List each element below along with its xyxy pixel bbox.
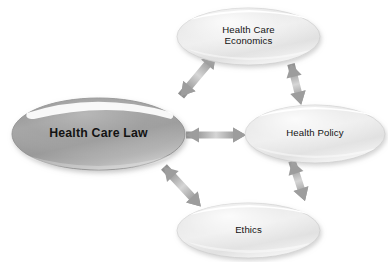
node-ethics[interactable] (177, 203, 320, 258)
node-health-policy[interactable] (245, 105, 385, 163)
connector-law-to-policy (186, 127, 246, 142)
connector-economics-to-policy (283, 62, 308, 107)
connector-law-to-ethics (158, 162, 207, 212)
diagram-canvas: Health Care Law Health Care Economics He… (0, 0, 388, 262)
node-health-care-economics[interactable] (177, 8, 320, 65)
diagram-graphics (0, 0, 388, 262)
node-health-care-law[interactable] (12, 98, 185, 170)
connector-policy-to-ethics (285, 159, 313, 204)
